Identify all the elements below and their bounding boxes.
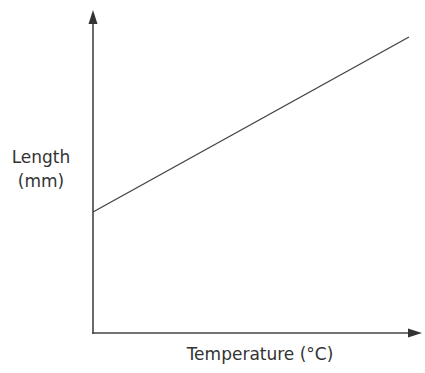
y-axis-arrow-icon xyxy=(89,10,98,24)
data-line xyxy=(93,37,409,212)
x-axis-arrow-icon xyxy=(408,329,422,338)
y-axis xyxy=(89,10,98,334)
y-axis-label-line1: Length xyxy=(0,146,82,168)
x-axis xyxy=(92,329,422,338)
y-axis-label-line2: (mm) xyxy=(0,170,82,192)
x-axis-label: Temperature (°C) xyxy=(160,344,360,364)
